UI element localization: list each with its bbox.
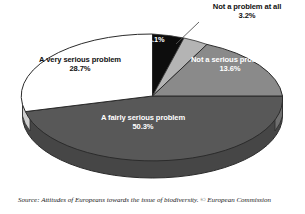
source-credit: © European Commission xyxy=(200,196,271,204)
source-text: Source: Attitudes of Europeans towards t… xyxy=(18,196,200,204)
pie-chart-graphic xyxy=(0,0,305,190)
source-caption: Source: Attitudes of Europeans towards t… xyxy=(18,196,300,204)
pie-top-faces xyxy=(21,34,282,161)
pie-chart-figure: A very serious problem 28.7% A fairly se… xyxy=(0,0,305,214)
